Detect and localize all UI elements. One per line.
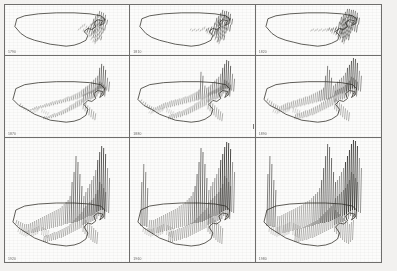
spike-map-1870: [5, 56, 129, 137]
spike-map-1790: [5, 5, 129, 55]
panel-year-label: 1980: [259, 258, 267, 261]
spike-map-1960: [130, 138, 254, 262]
axis-tick: [253, 124, 254, 129]
spike-map-1880: [130, 56, 254, 137]
panel-1880: 1880: [130, 56, 255, 138]
spike-map-1980: [256, 138, 381, 262]
spike-map-1810: [130, 5, 254, 55]
panel-1820: 1820: [256, 5, 381, 56]
spike-map-1920: [5, 138, 129, 262]
panel-1890: 1890: [256, 56, 381, 138]
panel-1810: 1810: [130, 5, 255, 56]
panel-year-label: 1810: [133, 51, 141, 54]
panel-year-label: 1790: [8, 51, 16, 54]
panel-year-label: 1920: [8, 258, 16, 261]
panel-1870: 1870: [5, 56, 130, 138]
panel-year-label: 1820: [259, 51, 267, 54]
panel-grid: 1790 1810: [5, 5, 381, 262]
panel-1960: 1960: [130, 138, 255, 262]
panel-1790: 1790: [5, 5, 130, 56]
panel-year-label: 1870: [8, 133, 16, 136]
spike-map-1820: [256, 5, 381, 55]
panel-year-label: 1880: [133, 133, 141, 136]
panel-1920: 1920: [5, 138, 130, 262]
figure-frame: 1790 1810: [4, 4, 382, 263]
panel-year-label: 1890: [259, 133, 267, 136]
panel-1980: 1980: [256, 138, 381, 262]
spike-map-1890: [256, 56, 381, 137]
panel-year-label: 1960: [133, 258, 141, 261]
